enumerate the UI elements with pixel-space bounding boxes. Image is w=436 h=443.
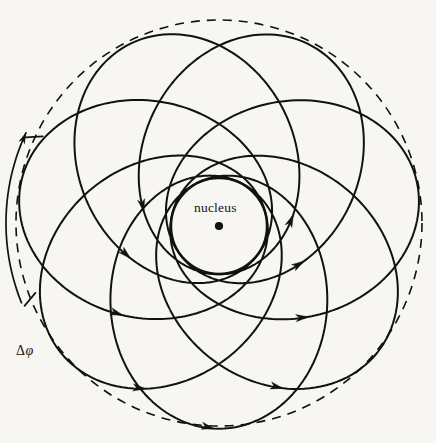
delta-phi-tick — [22, 293, 39, 306]
precession-angle-label: Δφ — [16, 343, 33, 359]
delta-symbol: Δ — [16, 343, 25, 358]
orbit-path-group — [19, 34, 419, 428]
nucleus-marker — [215, 222, 223, 230]
nucleus-dot — [215, 222, 223, 230]
orbit-arrow — [285, 213, 297, 227]
nucleus-label-text: nucleus — [194, 200, 237, 215]
nucleus-label: nucleus — [194, 200, 237, 216]
orbit-canvas — [0, 0, 436, 443]
orbit-figure: nucleus Δφ — [0, 0, 436, 443]
phi-symbol: φ — [25, 343, 33, 358]
